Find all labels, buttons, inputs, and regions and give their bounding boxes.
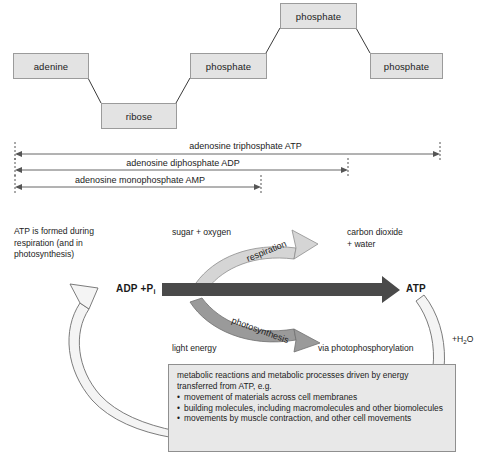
panel-bullet-item: movement of materials across cell membra…	[177, 392, 447, 403]
molecule-box-label: ribose	[126, 111, 152, 122]
molecule-box-adenine: adenine	[13, 53, 89, 79]
intro-text: ATP is formed during respiration (and in…	[14, 226, 134, 261]
bracket-label-atp: adenosine triphosphate ATP	[185, 141, 305, 151]
molecule-box-phosphate-3: phosphate	[370, 53, 443, 79]
molecule-box-phosphate-1: phosphate	[190, 53, 267, 79]
water-label: +H2O	[452, 334, 473, 346]
metabolic-uses-panel: metabolic reactions and metabolic proces…	[168, 364, 456, 452]
water-subscript: 2	[463, 338, 466, 345]
bracket-label-adp: adenosine diphosphate ADP	[122, 158, 244, 168]
molecule-box-label: phosphate	[384, 61, 429, 72]
molecule-box-label: phosphate	[296, 11, 341, 22]
atp-diagram: adenine ribose phosphate phosphate phosp…	[0, 0, 491, 461]
atp-label: ATP	[406, 283, 426, 294]
product-carbon-dioxide-water: carbon dioxide + water	[347, 227, 457, 250]
panel-bullet-item: building molecules, including macromolec…	[177, 403, 447, 414]
adp-pi-label: ADP +Pi	[116, 283, 156, 294]
product-photophosphorylation: via photophosphorylation	[318, 343, 414, 355]
adp-pi-text: ADP +P	[116, 283, 153, 294]
panel-bullet-list: movement of materials across cell membra…	[177, 392, 447, 424]
molecule-box-label: adenine	[34, 61, 69, 72]
molecule-box-label: phosphate	[206, 61, 251, 72]
molecule-box-ribose: ribose	[101, 103, 177, 129]
water-label-tail: O	[467, 334, 474, 344]
panel-lead-text: metabolic reactions and metabolic proces…	[177, 370, 447, 391]
adp-pi-subscript: i	[153, 287, 155, 296]
reactant-sugar-oxygen: sugar + oxygen	[172, 227, 231, 239]
bracket-label-amp: adenosine monophosphate AMP	[71, 175, 209, 185]
reactant-light-energy: light energy	[172, 343, 216, 355]
adp-to-atp-arrow	[162, 276, 400, 303]
molecule-box-phosphate-2: phosphate	[280, 3, 357, 29]
water-label-text: +H	[452, 334, 463, 344]
panel-bullet-item: movements by muscle contraction, and oth…	[177, 413, 447, 424]
